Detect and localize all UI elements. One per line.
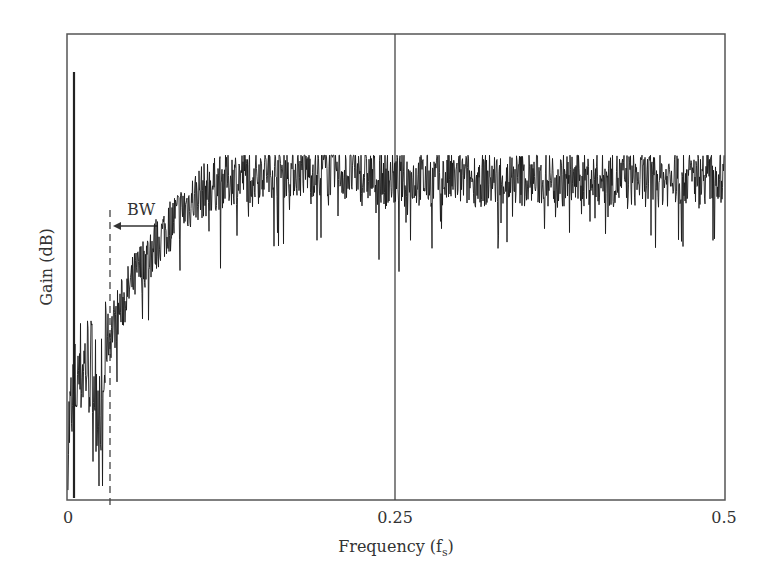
x-tick-0: 0	[63, 508, 73, 527]
y-axis-title: Gain (dB)	[37, 228, 56, 305]
x-tick-05: 0.5	[711, 508, 736, 527]
gain-spectrum-chart	[0, 0, 763, 583]
bw-arrow-head	[113, 222, 121, 230]
x-axis-title: Frequency (fs)	[338, 537, 454, 559]
plot-frame	[67, 34, 725, 500]
spectrum-trace	[68, 155, 724, 490]
x-tick-025: 0.25	[377, 508, 413, 527]
bw-label: BW	[127, 200, 155, 219]
